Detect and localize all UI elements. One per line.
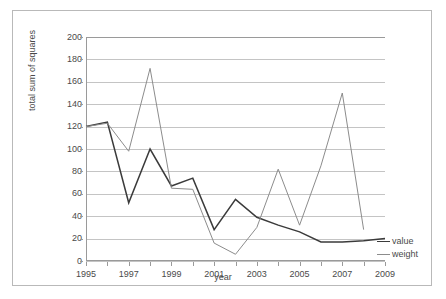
y-axis-tick-mark bbox=[80, 239, 83, 240]
y-axis-tick-label: 0 bbox=[54, 257, 82, 266]
x-axis-tick-mark bbox=[278, 262, 279, 266]
legend-label-weight: weight bbox=[391, 248, 418, 261]
y-axis-tick-mark bbox=[80, 149, 83, 150]
y-axis-tick-label: 80 bbox=[54, 167, 82, 176]
y-axis-tick-mark bbox=[80, 194, 83, 195]
x-axis-tick-mark bbox=[364, 262, 365, 266]
y-axis-tick-label: 180 bbox=[54, 55, 82, 64]
x-axis-tick-mark bbox=[107, 262, 108, 266]
y-axis-tick-label: 60 bbox=[54, 189, 82, 198]
y-axis-tick-mark bbox=[80, 59, 83, 60]
legend-line-sample-weight bbox=[377, 254, 390, 255]
x-axis-tick-mark bbox=[86, 262, 87, 266]
y-axis-tick-label: 200 bbox=[54, 33, 82, 42]
series-lines bbox=[86, 37, 385, 261]
x-axis-tick-mark bbox=[171, 262, 172, 266]
legend-entry-value: value bbox=[391, 235, 446, 248]
x-axis-tick-mark bbox=[214, 262, 215, 266]
y-axis-tick-label: 20 bbox=[54, 234, 82, 243]
chart-legend: value weight bbox=[391, 235, 446, 261]
chart-screenshot: total sum of squares 0204060801001201401… bbox=[0, 0, 446, 299]
plot-area bbox=[86, 37, 385, 261]
x-axis-tick-mark bbox=[342, 262, 343, 266]
x-axis-tick-mark bbox=[300, 262, 301, 266]
legend-entry-weight: weight bbox=[391, 248, 446, 261]
x-axis-tick-mark bbox=[321, 262, 322, 266]
x-axis-tick-mark bbox=[193, 262, 194, 266]
legend-label-value: value bbox=[391, 235, 414, 248]
x-axis-tick-mark bbox=[150, 262, 151, 266]
y-axis-tick-mark bbox=[80, 82, 83, 83]
y-axis-tick-label: 160 bbox=[54, 77, 82, 86]
legend-line-sample-value bbox=[377, 241, 390, 242]
x-axis-title: year bbox=[0, 272, 446, 282]
y-axis-tick-mark bbox=[80, 261, 83, 262]
y-axis-tick-mark bbox=[80, 37, 83, 38]
y-axis-tick-label: 100 bbox=[54, 145, 82, 154]
x-axis-tick-mark bbox=[257, 262, 258, 266]
y-axis-tick-labels: 020406080100120140160180200 bbox=[49, 37, 82, 261]
x-axis-tick-mark bbox=[385, 262, 386, 266]
y-axis-tick-mark bbox=[80, 127, 83, 128]
y-axis-tick-mark bbox=[80, 171, 83, 172]
y-axis-tick-label: 140 bbox=[54, 100, 82, 109]
y-axis-tick-mark bbox=[80, 216, 83, 217]
y-axis-title: total sum of squares bbox=[27, 30, 37, 111]
series-line-value bbox=[86, 122, 385, 242]
y-axis-tick-label: 120 bbox=[54, 122, 82, 131]
y-axis-tick-mark bbox=[80, 104, 83, 105]
series-line-weight bbox=[86, 68, 364, 254]
y-axis-tick-label: 40 bbox=[54, 212, 82, 221]
x-axis-tick-mark bbox=[236, 262, 237, 266]
x-axis-tick-mark bbox=[129, 262, 130, 266]
chart-frame: total sum of squares 0204060801001201401… bbox=[12, 10, 432, 286]
